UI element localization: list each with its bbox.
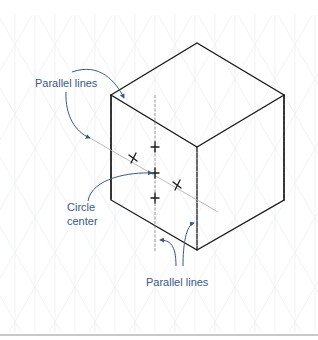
label-circle: Circle (67, 200, 95, 214)
bottom-divider (0, 334, 318, 336)
isometric-cube-diagram (0, 0, 318, 340)
label-parallel-lines-bottom: Parallel lines (146, 275, 208, 289)
label-parallel-lines-top: Parallel lines (35, 76, 97, 90)
label-center: center (67, 214, 98, 228)
